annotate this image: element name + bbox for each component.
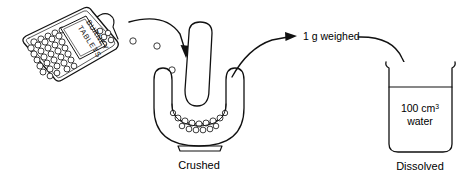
beaker-volume-exponent: 3 bbox=[435, 103, 439, 110]
process-diagram: BURNEY TABLETS bbox=[0, 0, 475, 177]
beaker-contents-label: water bbox=[406, 115, 433, 127]
mortar-caption: Crushed bbox=[178, 159, 220, 171]
falling-tablets bbox=[130, 38, 175, 73]
diagram-canvas: BURNEY TABLETS bbox=[0, 0, 475, 177]
transfer-label: 1 g weighed bbox=[303, 30, 360, 42]
falling-tablet-1 bbox=[130, 38, 136, 44]
arrow-2a-head bbox=[285, 32, 297, 41]
beaker-volume-value: 100 cm bbox=[401, 102, 436, 114]
falling-tablet-2 bbox=[154, 43, 160, 49]
mortar-and-pestle: Crushed bbox=[154, 22, 244, 171]
beaker-volume-label: 100 cm3 bbox=[401, 102, 439, 114]
pestle bbox=[185, 22, 212, 106]
arrow-bottle-to-mortar bbox=[129, 19, 191, 58]
tablet-bottle: BURNEY TABLETS bbox=[23, 7, 118, 81]
beaker: 100 cm3 water Dissolved bbox=[386, 62, 455, 172]
beaker-caption: Dissolved bbox=[396, 160, 444, 172]
mortar-base bbox=[178, 146, 222, 151]
